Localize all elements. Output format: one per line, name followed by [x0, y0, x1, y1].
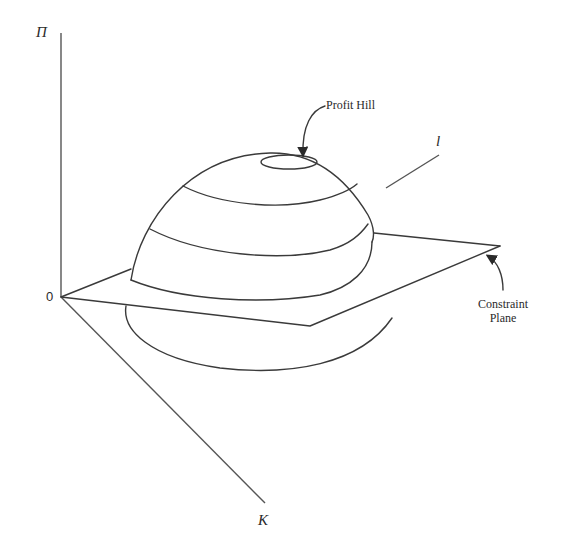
l-axis — [386, 155, 439, 188]
constraint-plane-back-edge-left — [61, 269, 131, 297]
profit-hill-contour-2 — [150, 224, 368, 256]
constraint-plane-arrow — [488, 256, 503, 290]
profit-hill-below-plane — [126, 306, 392, 370]
l-axis-label: l — [436, 133, 440, 150]
profit-hill-label: Profit Hill — [326, 98, 375, 112]
constraint-plane-label: Constraint Plane — [470, 297, 536, 325]
pi-axis-label: Π — [36, 24, 47, 41]
profit-hill-base-contour — [131, 242, 372, 300]
profit-hill-arrow — [303, 106, 325, 155]
constraint-plane-label-line2: Plane — [470, 311, 536, 325]
profit-hill-contour-1 — [183, 184, 357, 205]
constraint-plane-label-line1: Constraint — [470, 297, 536, 311]
profit-hill-peak — [261, 155, 317, 169]
k-axis — [61, 297, 265, 503]
constraint-plane-back-edge-right — [374, 233, 500, 246]
k-axis-label: K — [258, 512, 268, 529]
profit-hill-diagram — [0, 0, 564, 555]
constraint-plane-front-edge — [61, 246, 500, 326]
origin-label: 0 — [46, 289, 53, 304]
profit-hill-dome — [131, 153, 373, 280]
